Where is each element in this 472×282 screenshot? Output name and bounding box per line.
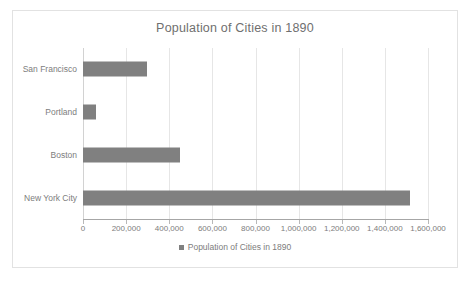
bar-row: Portland [83, 91, 428, 134]
bar-row: San Francisco [83, 48, 428, 91]
x-axis-tick-label: 400,000 [155, 224, 184, 233]
bar-san-francisco[interactable] [83, 62, 147, 77]
chart-legend: Population of Cities in 1890 [13, 242, 457, 252]
legend-label: Population of Cities in 1890 [188, 242, 292, 252]
bar-row: Boston [83, 134, 428, 177]
category-label-new-york-city: New York City [24, 193, 77, 203]
chart-container: Population of Cities in 1890 San Francis… [12, 10, 458, 268]
bar-portland[interactable] [83, 105, 96, 120]
category-label-san-francisco: San Francisco [23, 64, 77, 74]
x-axis-tick-label: 800,000 [241, 224, 270, 233]
category-label-portland: Portland [45, 107, 77, 117]
x-axis-tick-label: 600,000 [198, 224, 227, 233]
bar-new-york-city[interactable] [83, 190, 410, 205]
legend-swatch-icon [179, 245, 184, 250]
category-label-boston: Boston [51, 150, 77, 160]
x-axis-tick-label: 1,000,000 [281, 224, 317, 233]
x-axis-tick-label: 1,400,000 [367, 224, 403, 233]
x-axis-tick-label: 0 [81, 224, 85, 233]
bar-row: New York City [83, 176, 428, 219]
x-axis-tick-label: 1,200,000 [324, 224, 360, 233]
chart-title: Population of Cities in 1890 [13, 21, 457, 35]
bar-boston[interactable] [83, 147, 180, 162]
x-axis-tick-label: 200,000 [112, 224, 141, 233]
x-axis-tick-label: 1,600,000 [410, 224, 446, 233]
plot-area: San FranciscoPortlandBostonNew York City [83, 48, 428, 219]
gridline-1600000 [428, 48, 429, 219]
